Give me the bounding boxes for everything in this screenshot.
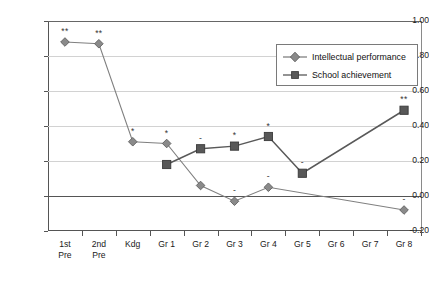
- legend-label: Intellectual performance: [312, 52, 406, 62]
- data-point-diamond: [128, 137, 137, 146]
- series-line-square: [167, 110, 404, 173]
- data-point-diamond: [400, 206, 409, 215]
- data-point-square: [163, 160, 171, 168]
- significance-marker: -: [226, 186, 244, 194]
- significance-marker: **: [395, 95, 413, 103]
- significance-marker: **: [90, 29, 108, 37]
- significance-marker: **: [56, 27, 74, 35]
- data-point-diamond: [264, 183, 273, 192]
- data-point-diamond: [95, 39, 104, 48]
- diamond-marker-icon: [282, 50, 308, 64]
- significance-marker: -: [293, 158, 311, 166]
- data-point-diamond: [61, 38, 70, 47]
- data-point-square: [230, 142, 238, 150]
- significance-marker: *: [226, 131, 244, 139]
- chart-container: 1.000.800.600.400.200.00-0.20 1st Pre2nd…: [0, 0, 429, 287]
- data-point-diamond: [230, 197, 239, 206]
- legend-item-intellectual-performance[interactable]: Intellectual performance: [282, 49, 406, 65]
- significance-marker: *: [259, 122, 277, 130]
- significance-marker: -: [192, 134, 210, 142]
- data-point-square: [264, 132, 272, 140]
- significance-marker: -: [395, 195, 413, 203]
- data-point-square: [196, 145, 204, 153]
- significance-marker: *: [158, 129, 176, 137]
- data-point-square: [298, 169, 306, 177]
- significance-marker: *: [124, 127, 142, 135]
- legend-label: School achievement: [312, 70, 391, 80]
- data-point-square: [400, 106, 408, 114]
- chart-legend: Intellectual performance School achievem…: [276, 44, 418, 86]
- square-marker-icon: [282, 68, 308, 82]
- significance-marker: -: [259, 172, 277, 180]
- legend-item-school-achievement[interactable]: School achievement: [282, 67, 391, 83]
